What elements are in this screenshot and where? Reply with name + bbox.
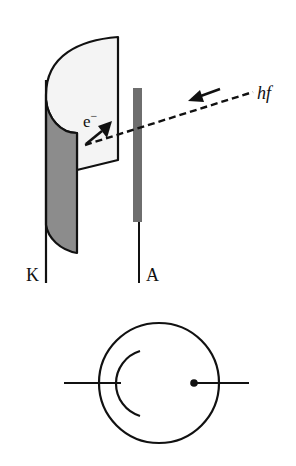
phototube-circuit-symbol bbox=[64, 323, 249, 443]
phototube-diagram: e− hf K A bbox=[0, 0, 296, 466]
cathode-label: K bbox=[26, 265, 39, 285]
photon-arrow-icon bbox=[188, 89, 220, 102]
anode-label: A bbox=[146, 265, 159, 285]
anode-bar bbox=[133, 88, 142, 222]
photon-label: hf bbox=[257, 83, 274, 103]
